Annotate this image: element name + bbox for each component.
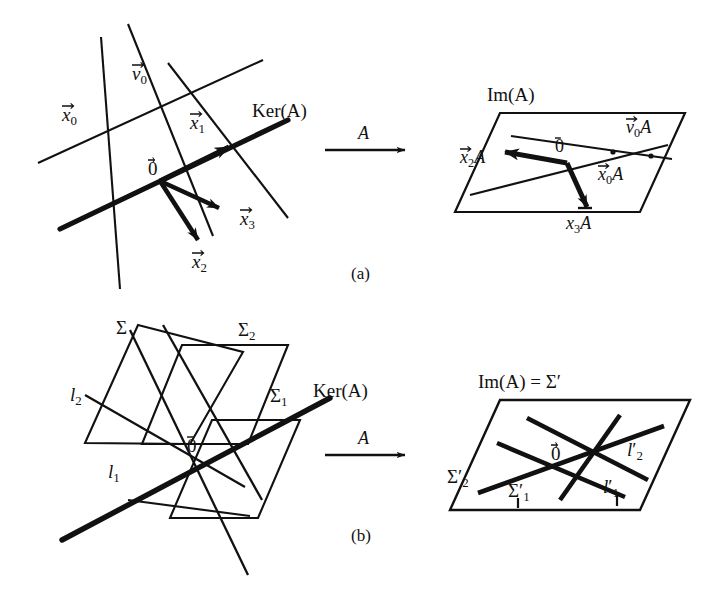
label-vector-v0A: v0A — [626, 116, 651, 139]
caption-b: (b) — [351, 527, 371, 544]
label-origin-b-source: 0 — [187, 434, 197, 455]
label-map-a: A — [358, 124, 369, 142]
label-vector-v0: v0 — [132, 62, 147, 87]
image-plane-b — [450, 400, 690, 510]
label-origin-a-target: 0 — [555, 135, 564, 155]
label-vector-x2A: x2A — [460, 146, 485, 169]
point-dot-x0A — [610, 149, 615, 154]
label-image-b: Im(A) = Σ′ — [478, 372, 561, 391]
label-line-l1-prime: l′1 — [603, 477, 619, 500]
label-vector-x2: x2 — [192, 250, 207, 275]
line-lower-b — [128, 500, 250, 516]
label-map-b: A — [358, 429, 369, 447]
figure-graphics — [0, 0, 716, 613]
vector-x3A-arrow — [567, 163, 587, 207]
label-plane-sigma1-prime: Σ′1 — [508, 481, 530, 504]
label-plane-sigma1: Σ1 — [270, 386, 288, 409]
label-origin-b-target: 0 — [551, 442, 561, 463]
label-kernel-b: Ker(A) — [313, 381, 368, 400]
label-line-l2-prime: l′2 — [627, 440, 643, 463]
point-dot-v0A — [648, 153, 653, 158]
panel-a-source-graphics — [38, 24, 288, 289]
vector-x1-arrow — [160, 147, 229, 181]
label-vector-x0: x0 — [62, 103, 77, 128]
label-vector-x3A: x3A — [566, 214, 591, 235]
label-image-a: Im(A) — [487, 85, 534, 104]
label-line-l1: l1 — [108, 462, 120, 485]
caption-a: (a) — [351, 265, 370, 282]
line-intersection-b1 — [163, 325, 262, 500]
panel-b-target-graphics — [450, 400, 690, 510]
label-plane-sigma2: Σ2 — [238, 320, 256, 343]
label-plane-sigma: Σ — [116, 318, 127, 337]
label-kernel-a: Ker(A) — [252, 101, 307, 120]
label-plane-sigma2-prime: Σ′2 — [447, 467, 469, 490]
label-vector-x1: x1 — [190, 111, 205, 136]
plane-sigma-hidden — [140, 325, 190, 443]
label-origin-a-source: 0 — [148, 157, 158, 178]
label-vector-x3: x3 — [240, 207, 255, 232]
label-vector-x0A: x0A — [598, 163, 623, 186]
label-line-l2: l2 — [70, 385, 82, 408]
figure-root: v0 x0 x1 x2 x3 0 Ker(A) A Im(A) v0A x0A … — [0, 0, 716, 613]
line-thin-vertical-a — [101, 37, 120, 289]
